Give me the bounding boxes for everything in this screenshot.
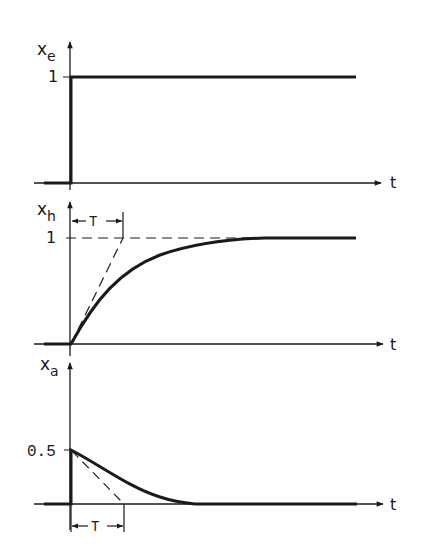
lag-response-curve: [44, 238, 356, 344]
y-axis-label: xe: [37, 39, 56, 64]
step-curve: [44, 77, 356, 183]
y-axis-label: xh: [37, 199, 56, 224]
x-axis-label: t: [390, 495, 396, 514]
panel-derivative-response: xa 0.5 t T: [27, 354, 396, 535]
level-label: 0.5: [27, 443, 56, 461]
derivative-response-curve: [44, 450, 357, 504]
panel-input: xe 1 t: [34, 39, 396, 192]
level-label: 1: [46, 228, 56, 247]
level-label: 1: [48, 67, 58, 86]
y-axis-label: xa: [40, 354, 59, 379]
panel-lag-response: xh 1 t T: [34, 199, 396, 356]
x-axis-label: t: [390, 173, 396, 192]
time-constant-label: T: [89, 214, 97, 230]
x-axis-label: t: [390, 335, 396, 354]
time-constant-label: T: [91, 519, 99, 535]
step-response-diagram: xe 1 t xh 1 t T xa 0.5 t: [0, 0, 421, 559]
